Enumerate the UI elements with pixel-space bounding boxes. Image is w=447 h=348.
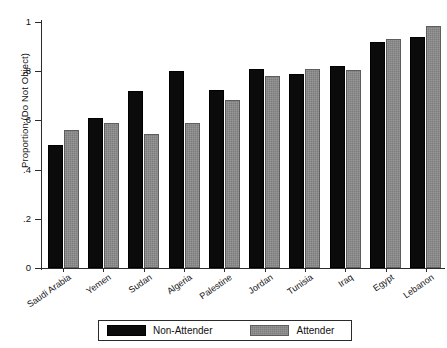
bar-chart-figure: Proportion (Do Not Object) 0.2.4.6.81 Sa… <box>0 0 447 348</box>
x-tick-mark <box>63 268 64 272</box>
x-tick-mark <box>103 268 104 272</box>
bar-group <box>289 22 320 268</box>
x-tick-label: Iraq <box>337 272 355 289</box>
y-tick-label: .8 <box>0 65 31 76</box>
bar-non-attender <box>330 66 345 268</box>
x-tick-mark <box>386 268 387 272</box>
legend-item-attender: Attender <box>242 321 334 340</box>
bar-attender <box>104 123 119 268</box>
bar-group <box>410 22 441 268</box>
bar-attender <box>144 134 159 268</box>
bar-non-attender <box>169 71 184 268</box>
bar-attender <box>185 123 200 268</box>
y-tick-label: .2 <box>0 213 31 224</box>
bar-attender <box>386 39 401 268</box>
bar-non-attender <box>249 69 264 268</box>
bar-group <box>370 22 401 268</box>
bar-group <box>209 22 240 268</box>
bar-non-attender <box>128 91 143 268</box>
x-tick-mark <box>426 268 427 272</box>
bar-non-attender <box>88 118 103 268</box>
x-tick-label: Jordan <box>246 272 274 296</box>
x-tick-label: Tunisia <box>285 272 314 297</box>
x-tick-mark <box>305 268 306 272</box>
bar-non-attender <box>370 42 385 268</box>
y-axis-title: Proportion (Do Not Object) <box>19 11 30 211</box>
x-tick-label: Egypt <box>371 272 396 293</box>
bar-attender <box>305 69 320 268</box>
x-axis-line <box>41 268 445 269</box>
plot-area <box>41 22 444 268</box>
bar-attender <box>64 130 79 268</box>
x-tick-label: Saudi Arabia <box>25 272 73 309</box>
bar-group <box>88 22 119 268</box>
y-tick-label: .6 <box>0 114 31 125</box>
bar-attender <box>265 76 280 268</box>
bar-non-attender <box>410 37 425 268</box>
bar-group <box>128 22 159 268</box>
y-tick-label: 0 <box>0 262 31 273</box>
x-tick-label: Sudan <box>126 272 153 295</box>
bar-attender <box>225 100 240 269</box>
bar-group <box>330 22 361 268</box>
x-tick-label: Yemen <box>85 272 113 296</box>
legend-swatch-non-attender <box>107 325 146 336</box>
bar-group <box>249 22 280 268</box>
bar-non-attender <box>48 145 63 268</box>
legend-swatch-attender <box>250 325 289 336</box>
bar-attender <box>346 70 361 268</box>
x-tick-mark <box>224 268 225 272</box>
bar-group <box>48 22 79 268</box>
x-tick-label: Algeria <box>165 272 194 296</box>
bar-non-attender <box>289 74 304 268</box>
bar-attender <box>426 26 441 268</box>
x-tick-mark <box>345 268 346 272</box>
x-tick-label: Palestine <box>198 272 234 301</box>
chart-legend: Non-Attender Attender <box>98 320 352 341</box>
legend-item-non-attender: Non-Attender <box>99 321 212 340</box>
legend-label-non-attender: Non-Attender <box>153 325 212 336</box>
y-tick-mark <box>35 268 41 269</box>
legend-label-attender: Attender <box>296 325 334 336</box>
bar-group <box>169 22 200 268</box>
x-tick-mark <box>144 268 145 272</box>
y-tick-label: 1 <box>0 16 31 27</box>
x-tick-mark <box>265 268 266 272</box>
x-tick-mark <box>184 268 185 272</box>
y-tick-label: .4 <box>0 164 31 175</box>
bar-non-attender <box>209 90 224 268</box>
x-tick-label: Lebanon <box>401 272 435 300</box>
